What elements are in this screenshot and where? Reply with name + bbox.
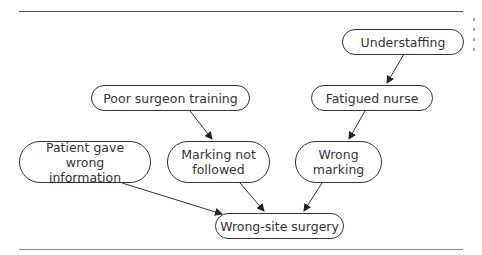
node-label: Wrong-site surgery [220, 219, 339, 234]
node-fatigued-nurse: Fatigued nurse [311, 85, 433, 111]
edge-poor-training-to-marking-not-followed [190, 111, 212, 139]
node-wrong-marking: Wrong marking [295, 141, 382, 183]
edge-wrong-marking-to-wrong-site-surgery [304, 183, 322, 211]
node-poor-surgeon-training: Poor surgeon training [91, 85, 250, 111]
node-label: Poor surgeon training [103, 91, 237, 106]
edge-understaffing-to-fatigued-nurse [387, 54, 404, 83]
node-label: Marking not followed [179, 147, 259, 177]
node-label: Patient gave wrong information [30, 140, 140, 185]
node-label: Fatigued nurse [326, 91, 419, 106]
node-label: Understaffing [361, 35, 446, 50]
node-patient-gave-wrong-information: Patient gave wrong information [19, 141, 151, 183]
node-understaffing: Understaffing [342, 29, 464, 55]
edge-patient-info-to-wrong-site-surgery [122, 183, 222, 214]
edge-fatigued-nurse-to-wrong-marking [349, 111, 365, 139]
node-label: Wrong marking [309, 147, 369, 177]
node-marking-not-followed: Marking not followed [167, 141, 270, 183]
edge-marking-not-followed-to-wrong-site-surgery [240, 183, 264, 211]
node-wrong-site-surgery: Wrong-site surgery [215, 213, 344, 239]
